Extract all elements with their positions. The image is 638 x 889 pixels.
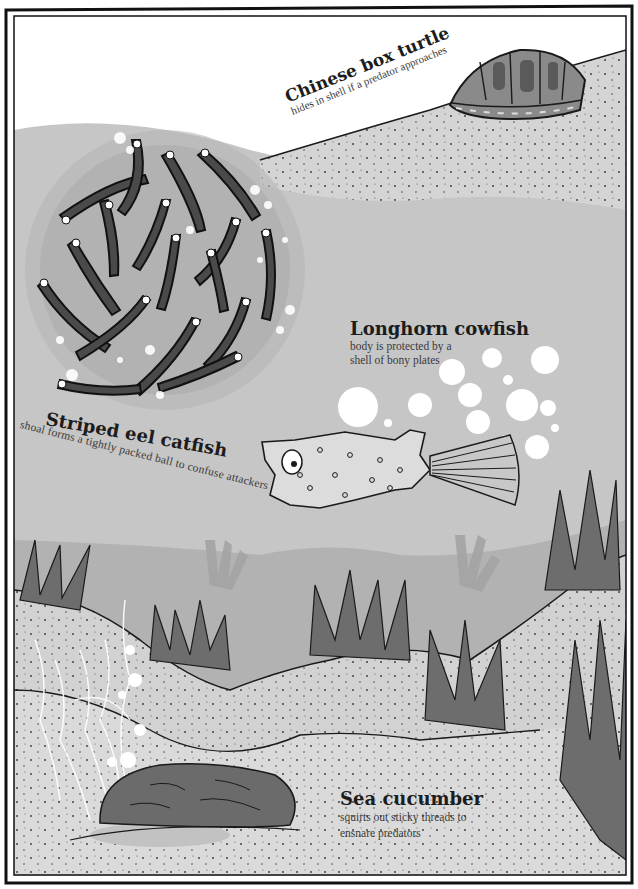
animal-description-line: squirts out sticky threads to <box>340 809 483 825</box>
animal-description-line: ensnare predators <box>340 825 483 841</box>
label-sea-cucumber: Sea cucumber squirts out sticky threads … <box>340 788 483 841</box>
animal-description-line: shell of bony plates <box>350 353 529 367</box>
catfish-shoal <box>25 130 305 410</box>
label-longhorn-cowfish: Longhorn cowfish body is protected by a … <box>350 318 529 367</box>
animal-name: Sea cucumber <box>340 788 483 809</box>
animal-name: Longhorn cowfish <box>350 318 529 339</box>
illustration-page: Chinese box turtle hides in shell if a p… <box>0 0 638 889</box>
animal-description-line: body is protected by a <box>350 339 529 353</box>
